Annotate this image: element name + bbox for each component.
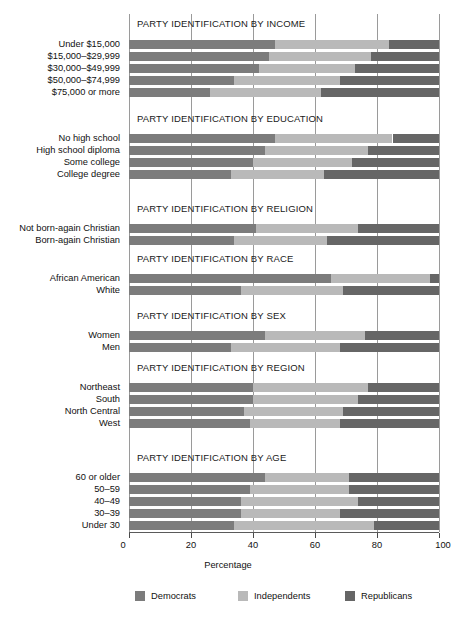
section-title: PARTY IDENTIFICATION BY AGE <box>137 452 286 463</box>
category-label: 40–49 <box>0 496 120 506</box>
bar-row <box>129 473 439 482</box>
bar-segment-independents <box>265 331 364 340</box>
legend-item-independents[interactable]: Independents <box>238 589 310 603</box>
x-tick <box>439 533 440 538</box>
x-tick-label: 100 <box>428 540 456 550</box>
legend-swatch-icon <box>345 591 355 601</box>
section-title: PARTY IDENTIFICATION BY RELIGION <box>137 203 313 214</box>
bar-segment-democrats <box>129 88 210 97</box>
category-label: $15,000–$29,999 <box>0 51 120 61</box>
bar-row <box>129 64 439 73</box>
category-label: Men <box>0 342 120 352</box>
bar-segment-independents <box>253 383 368 392</box>
bar-row <box>129 395 439 404</box>
bar-segment-republicans <box>355 64 439 73</box>
bar-segment-democrats <box>129 158 253 167</box>
category-label: No high school <box>0 133 120 143</box>
bar-segment-independents <box>231 170 324 179</box>
legend-item-republicans[interactable]: Republicans <box>345 589 412 603</box>
bar-segment-republicans <box>327 236 439 245</box>
x-tick <box>253 533 254 538</box>
bar-segment-republicans <box>340 509 439 518</box>
category-label: Some college <box>0 157 120 167</box>
bar-row <box>129 88 439 97</box>
x-tick-label: 60 <box>300 540 330 550</box>
bar-row <box>129 170 439 179</box>
bar-segment-democrats <box>129 170 231 179</box>
category-label: $50,000–$74,999 <box>0 75 120 85</box>
bar-segment-independents <box>234 236 327 245</box>
x-tick-label: 20 <box>176 540 206 550</box>
category-label: South <box>0 394 120 404</box>
bar-segment-independents <box>256 224 358 233</box>
bar-segment-democrats <box>129 274 331 283</box>
category-label: Under $15,000 <box>0 39 120 49</box>
bar-row <box>129 224 439 233</box>
bar-row <box>129 286 439 295</box>
x-tick-label: 40 <box>238 540 268 550</box>
bar-segment-democrats <box>129 473 265 482</box>
category-label: African American <box>0 273 120 283</box>
legend-label: Republicans <box>361 591 412 601</box>
bar-row <box>129 407 439 416</box>
legend-label: Independents <box>254 591 310 601</box>
bar-segment-independents <box>275 134 393 143</box>
bar-segment-democrats <box>129 407 244 416</box>
bar-segment-independents <box>275 40 390 49</box>
bar-segment-republicans <box>365 331 439 340</box>
category-label: 60 or older <box>0 472 120 482</box>
section-title: PARTY IDENTIFICATION BY SEX <box>137 310 286 321</box>
bar-segment-republicans <box>368 146 439 155</box>
bar-segment-republicans <box>430 274 439 283</box>
x-tick <box>191 533 192 538</box>
bar-segment-democrats <box>129 509 241 518</box>
bar-segment-republicans <box>349 473 439 482</box>
gridline-100 <box>439 14 440 532</box>
category-label: Born-again Christian <box>0 235 120 245</box>
party-identification-chart: PARTY IDENTIFICATION BY INCOMEUnder $15,… <box>0 0 456 618</box>
category-label: College degree <box>0 169 120 179</box>
section-title: PARTY IDENTIFICATION BY REGION <box>137 362 305 373</box>
bar-segment-independents <box>265 146 367 155</box>
legend-swatch-icon <box>135 591 145 601</box>
x-tick-label: 0 <box>108 540 138 550</box>
bar-segment-republicans <box>340 419 439 428</box>
legend-item-democrats[interactable]: Democrats <box>135 589 196 603</box>
bar-segment-independents <box>231 343 340 352</box>
bar-segment-independents <box>244 407 343 416</box>
x-axis-title: Percentage <box>0 560 456 570</box>
bar-segment-independents <box>250 485 349 494</box>
bar-row <box>129 343 439 352</box>
bar-segment-democrats <box>129 419 250 428</box>
category-label: North Central <box>0 406 120 416</box>
bar-row <box>129 40 439 49</box>
bar-segment-democrats <box>129 497 241 506</box>
bar-segment-democrats <box>129 52 269 61</box>
bar-segment-republicans <box>340 343 439 352</box>
x-tick <box>377 533 378 538</box>
bar-row <box>129 76 439 85</box>
chart-legend: DemocratsIndependentsRepublicans <box>0 589 456 605</box>
bar-segment-democrats <box>129 64 259 73</box>
bar-segment-republicans <box>389 40 439 49</box>
category-label: 50–59 <box>0 484 120 494</box>
bar-row <box>129 485 439 494</box>
bar-segment-republicans <box>321 88 439 97</box>
bar-row <box>129 236 439 245</box>
category-label: Under 30 <box>0 520 120 530</box>
bar-row <box>129 146 439 155</box>
category-label: $30,000–$49,999 <box>0 63 120 73</box>
bar-segment-democrats <box>129 40 275 49</box>
category-label: White <box>0 285 120 295</box>
bar-segment-republicans <box>358 224 439 233</box>
bar-segment-democrats <box>129 383 253 392</box>
bar-segment-independents <box>269 52 371 61</box>
bar-segment-democrats <box>129 224 256 233</box>
bar-segment-republicans <box>343 407 439 416</box>
category-label: West <box>0 418 120 428</box>
bar-row <box>129 509 439 518</box>
bar-segment-republicans <box>393 134 440 143</box>
bar-segment-independents <box>234 76 339 85</box>
bar-row <box>129 134 439 143</box>
x-tick <box>129 533 130 538</box>
